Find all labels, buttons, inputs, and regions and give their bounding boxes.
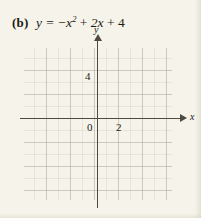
x-axis-arrow-icon [180, 114, 187, 122]
tick-label-origin: 0 [87, 121, 93, 133]
y-axis-label: y [94, 24, 98, 35]
tick-label-y-4: 4 [85, 70, 91, 82]
x-axis [20, 118, 183, 119]
y-axis [97, 40, 98, 208]
tick-label-x-2: 2 [116, 121, 122, 133]
coordinate-graph: x y 0 2 4 [0, 26, 201, 218]
equation-term1-exponent: 2 [72, 13, 77, 23]
x-axis-label: x [190, 111, 194, 122]
y-axis-arrow-icon [94, 34, 102, 41]
textbook-page: (b) y = −x2 + 2x + 4 x y 0 2 4 [0, 0, 201, 218]
